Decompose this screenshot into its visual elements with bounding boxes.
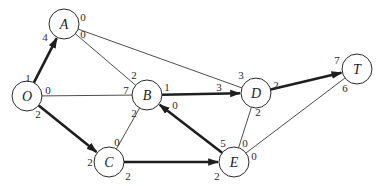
edge-capacity-label-oc-at-o: 2 (35, 108, 41, 120)
node-label: T (353, 62, 362, 77)
edge-capacity-label-eb-at-e: 5 (220, 137, 226, 149)
edge-capacity-label-oc-at-c: 2 (87, 156, 93, 168)
edge-capacity-label-bc-at-c: 0 (114, 136, 120, 148)
node-d: D (241, 78, 271, 108)
edge-capacity-label-oa-at-a: 4 (42, 31, 48, 43)
edge-a-b (75, 34, 135, 85)
node-a: A (49, 9, 79, 39)
edge-capacity-label-ad-at-a: 0 (80, 11, 86, 23)
node-label: D (250, 86, 261, 101)
edge-capacity-label-ce-at-e: 2 (214, 170, 220, 182)
edge-capacity-label-ce-at-c: 2 (125, 170, 131, 182)
edges (34, 29, 345, 162)
edge-a-d (78, 29, 242, 88)
edge-labels: 140722020313205022202706 (25, 11, 348, 182)
edge-capacity-label-ad-at-d: 3 (238, 69, 244, 81)
edge-capacity-label-et-at-t: 6 (342, 82, 348, 94)
edge-capacity-label-dt-at-t: 7 (334, 54, 340, 66)
edge-capacity-label-dt-at-d: 2 (273, 79, 279, 91)
flow-arrow-d-t (271, 73, 342, 90)
edge-capacity-label-bd-at-b: 1 (164, 81, 170, 93)
node-label: A (59, 17, 69, 32)
edge-capacity-label-oa-at-o: 1 (25, 72, 31, 84)
node-label: C (104, 155, 114, 170)
edge-capacity-label-bc-at-b: 2 (131, 107, 137, 119)
flow-arrow-o-a (34, 38, 57, 82)
edge-capacity-label-eb-at-b: 0 (172, 99, 178, 111)
edge-capacity-label-ob-at-b: 7 (123, 84, 129, 96)
flow-arrow-e-b (160, 105, 222, 153)
edge-capacity-label-ob-at-o: 0 (45, 84, 51, 96)
edge-capacity-label-de-at-e: 0 (242, 137, 248, 149)
node-t: T (342, 54, 372, 84)
node-e: E (219, 147, 249, 177)
edge-o-b (42, 95, 132, 96)
node-o: O (12, 81, 42, 111)
node-label: B (143, 88, 152, 103)
flow-arrow-b-d (162, 93, 240, 94)
flow-arrow-o-c (39, 105, 97, 152)
edge-capacity-label-ab-at-a: 0 (80, 28, 86, 40)
flow-network-diagram: OABCDET 140722020313205022202706 (0, 0, 385, 186)
node-c: C (94, 147, 124, 177)
edge-capacity-label-bd-at-d: 3 (216, 81, 222, 93)
edge-capacity-label-ab-at-b: 2 (131, 69, 137, 81)
node-b: B (132, 80, 162, 110)
node-label: O (22, 89, 32, 104)
edge-capacity-label-de-at-d: 2 (255, 106, 261, 118)
edge-capacity-label-et-at-e: 0 (251, 150, 257, 162)
node-label: E (229, 155, 239, 170)
